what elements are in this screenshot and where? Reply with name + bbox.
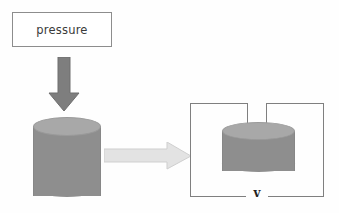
frame-right-border <box>323 103 324 197</box>
cylinder-before-body <box>33 126 101 196</box>
frame-top-right-border <box>266 103 324 104</box>
cylinder-after-compression <box>222 122 295 180</box>
volume-label: v <box>246 187 268 199</box>
frame-top-left-border <box>190 103 248 104</box>
frame-bottom-right-border <box>268 196 324 197</box>
pressure-label-box: pressure <box>12 12 112 47</box>
frame-left-border <box>190 103 191 197</box>
right-arrow-icon <box>104 142 192 170</box>
cylinder-after-top <box>222 122 295 140</box>
cylinder-before-compression <box>33 117 101 205</box>
pressure-label-text: pressure <box>13 23 111 37</box>
frame-bottom-left-border <box>190 196 246 197</box>
cylinder-before-top <box>33 117 101 136</box>
diagram-canvas: pressure v <box>0 0 339 213</box>
down-arrow-icon <box>48 57 80 112</box>
